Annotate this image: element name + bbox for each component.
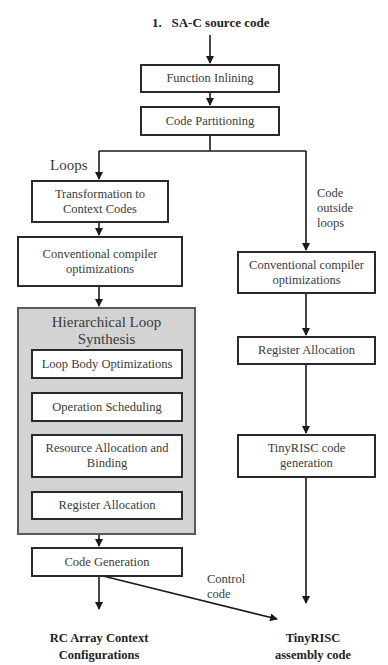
source-code-title: 1. SA-C source code — [152, 15, 269, 30]
control-code-label: Control code — [207, 572, 255, 602]
hls-group-title: Hierarchical Loop Synthesis — [19, 314, 194, 348]
resource-allocation-box: Resource Allocation and Binding — [31, 434, 183, 478]
register-allocation-left-box: Register Allocation — [31, 491, 183, 520]
conventional-opt-right-box: Conventional compiler optimizations — [237, 251, 376, 294]
rc-array-output-label: RC Array Context Configurations — [34, 630, 164, 664]
register-allocation-right-box: Register Allocation — [237, 336, 376, 365]
loops-label: Loops — [50, 158, 88, 173]
code-generation-box: Code Generation — [31, 547, 183, 577]
tinyrisc-codegen-box: TinyRISC code generation — [237, 434, 376, 478]
compiler-flow-diagram: 1. SA-C source code Function Inlining Co… — [0, 0, 388, 665]
code-partitioning-box: Code Partitioning — [140, 106, 280, 136]
transformation-box: Transformation to Context Codes — [31, 180, 169, 223]
tinyrisc-assembly-output-label: TinyRISC assembly code — [268, 630, 358, 664]
function-inlining-box: Function Inlining — [140, 64, 280, 93]
code-outside-loops-label: Code outside loops — [317, 186, 377, 231]
conventional-opt-left-box: Conventional compiler optimizations — [17, 236, 183, 287]
loop-body-opt-box: Loop Body Optimizations — [31, 349, 183, 379]
operation-scheduling-box: Operation Scheduling — [31, 392, 183, 422]
